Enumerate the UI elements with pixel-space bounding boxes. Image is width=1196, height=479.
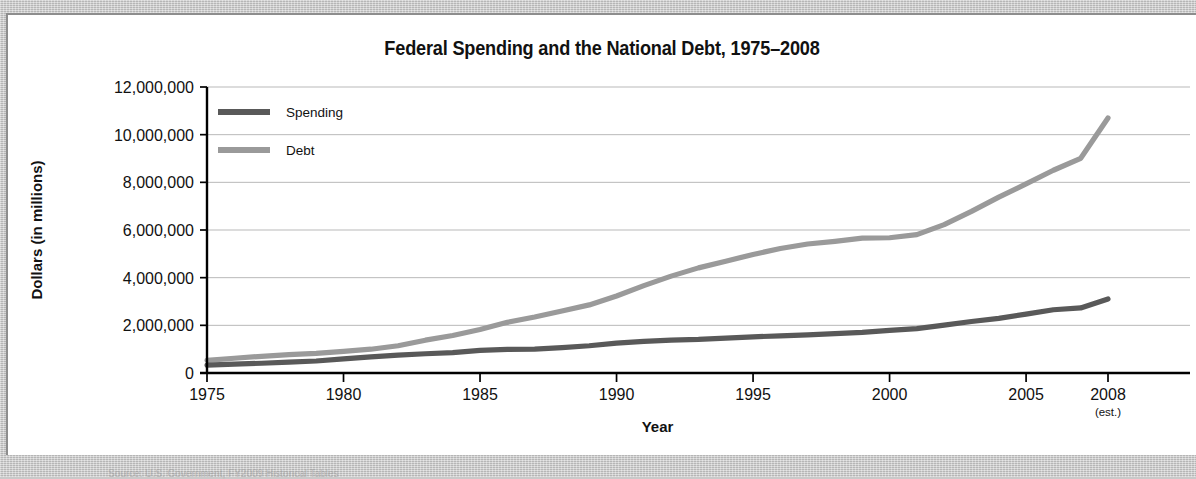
x-tick-label: 2005: [1008, 386, 1044, 403]
legend-group: SpendingDebt: [218, 105, 343, 158]
x-tick-label: 1980: [326, 386, 362, 403]
data-series-group: [207, 118, 1108, 365]
y-tick-label: 0: [185, 365, 194, 382]
y-tick-label: 2,000,000: [123, 317, 194, 334]
x-tick-note: (est.): [1095, 406, 1121, 418]
legend-label-debt: Debt: [286, 143, 315, 158]
x-axis-ticks-group: [207, 373, 1108, 382]
y-axis-title: Dollars (in millions): [28, 160, 45, 299]
y-axis-tick-labels-group: 02,000,0004,000,0006,000,0008,000,00010,…: [114, 79, 194, 382]
series-line-spending: [207, 299, 1108, 365]
x-tick-label: 2000: [872, 386, 908, 403]
y-tick-label: 10,000,000: [114, 127, 194, 144]
x-axis-tick-labels-group: 19751980198519901995200020052008(est.): [189, 386, 1126, 418]
y-tick-label: 6,000,000: [123, 222, 194, 239]
y-tick-label: 4,000,000: [123, 270, 194, 287]
x-tick-label: 1995: [735, 386, 771, 403]
x-tick-label: 1990: [599, 386, 635, 403]
gridlines-group: [207, 87, 1190, 325]
legend-label-spending: Spending: [286, 105, 343, 120]
x-tick-label: 1985: [462, 386, 498, 403]
x-tick-label: 2008: [1090, 386, 1126, 403]
y-tick-label: 8,000,000: [123, 174, 194, 191]
source-footnote: Source: U.S. Government, FY2009 Historic…: [108, 468, 338, 479]
x-axis-title: Year: [642, 418, 674, 435]
y-tick-label: 12,000,000: [114, 79, 194, 96]
x-tick-label: 1975: [189, 386, 225, 403]
